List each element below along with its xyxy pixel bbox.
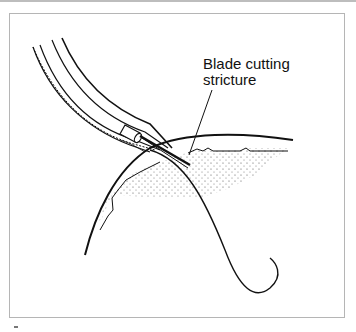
annotation-line-2: stricture [203, 72, 290, 88]
leader-line [189, 90, 212, 155]
annotation-line-1: Blade cutting [203, 56, 290, 72]
endoscope-sheath [33, 38, 172, 152]
figure-mark [14, 326, 18, 328]
illustration [0, 0, 356, 332]
annotation-label: Blade cutting stricture [203, 56, 290, 88]
stricture-tissue [98, 148, 288, 230]
